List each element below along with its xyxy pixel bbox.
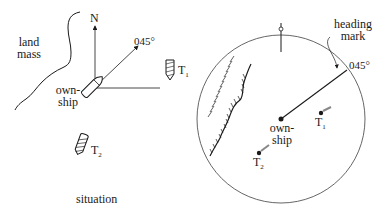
radar-target1-label: T1 — [315, 116, 326, 133]
target1-vessel-icon — [166, 60, 174, 80]
target1-subscript: 1 — [185, 71, 189, 79]
radar-target2-subscript: 2 — [260, 163, 264, 171]
course-arrow — [98, 46, 138, 84]
coast-echo-outer — [208, 56, 234, 117]
target2-label: T2 — [91, 144, 102, 161]
heading-line — [281, 70, 347, 119]
radar-target1-subscript: 1 — [322, 123, 326, 131]
coast-echo-hatch — [210, 74, 245, 153]
land-label-line2: mass — [12, 48, 46, 60]
north-label: N — [90, 12, 99, 24]
heading-mark-label: heading mark — [328, 18, 378, 42]
radar-ownship-line2: ship — [268, 134, 296, 146]
ownship-label-line2: ship — [55, 96, 81, 108]
radar-target2-label: T2 — [253, 156, 264, 173]
target1-trail — [323, 107, 331, 111]
radar-ownship-label: own- ship — [268, 122, 296, 146]
course-label: 045° — [134, 35, 155, 47]
target2-subscript: 2 — [98, 151, 102, 159]
situation-caption: situation — [76, 193, 117, 205]
land-mass-label: land mass — [12, 36, 46, 60]
north-marker-ring — [279, 27, 283, 31]
radar-heading-label: 045° — [349, 59, 370, 71]
situation-panel — [15, 12, 174, 156]
heading-mark-line2: mark — [328, 30, 378, 42]
ownship-label: own- ship — [55, 84, 81, 108]
target2-vessel-icon — [74, 133, 89, 156]
target1-label: T1 — [178, 64, 189, 81]
radar-panel — [197, 23, 365, 203]
ownship-vessel-icon — [81, 74, 105, 98]
